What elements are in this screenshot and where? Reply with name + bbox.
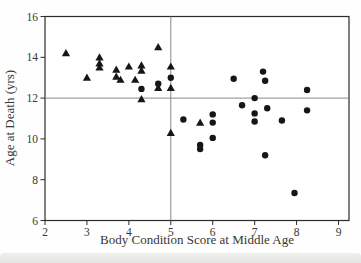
scatter-point-circle (279, 117, 285, 123)
scatter-point-circle (155, 81, 161, 87)
y-tick-label: 14 (27, 51, 39, 63)
scatter-point-circle (210, 119, 216, 125)
x-tick-label: 9 (336, 226, 342, 238)
plot-frame (45, 17, 349, 221)
y-tick-label: 6 (32, 215, 38, 227)
scatter-point-circle (138, 86, 144, 92)
scatter-point-circle (197, 146, 203, 152)
scatter-point-circle (251, 118, 257, 124)
scatter-point-circle (210, 111, 216, 117)
scatter-point-circle (264, 105, 270, 111)
scatter-point-circle (239, 102, 245, 108)
y-tick-label: 8 (32, 174, 38, 186)
y-tick-label: 16 (27, 11, 39, 23)
plot-area (45, 17, 349, 221)
y-tick-label: 10 (27, 133, 39, 145)
scatter-point-circle (304, 87, 310, 93)
x-tick-label: 8 (294, 226, 300, 238)
scatter-point-circle (168, 75, 174, 81)
scatter-point-circle (210, 135, 216, 141)
scatter-point-circle (304, 107, 310, 113)
scatter-point-circle (291, 190, 297, 196)
page-edge-band (0, 253, 361, 263)
y-tick-label: 12 (27, 92, 39, 104)
scatter-point-circle (251, 110, 257, 116)
figure-page: 234567896810121416 Body Condition Score … (0, 0, 361, 263)
scatter-point-circle (262, 78, 268, 84)
x-tick-label: 3 (84, 226, 90, 238)
scatter-point-circle (251, 95, 257, 101)
y-axis-title: Age at Death (yrs) (2, 70, 17, 166)
scatter-plot: 234567896810121416 Body Condition Score … (0, 0, 361, 263)
scatter-point-circle (180, 116, 186, 122)
x-tick-label: 2 (42, 226, 48, 238)
x-axis-title: Body Condition Score at Middle Age (100, 232, 294, 247)
scatter-point-circle (260, 68, 266, 74)
scatter-point-circle (262, 152, 268, 158)
scatter-point-circle (230, 76, 236, 82)
